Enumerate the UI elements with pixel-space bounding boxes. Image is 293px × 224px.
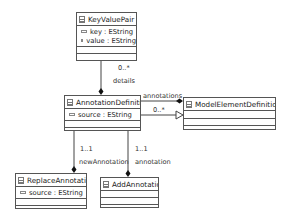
attribute-label: source : EString (78, 111, 132, 119)
generalization-triangle (176, 111, 183, 119)
class-icon (103, 181, 109, 188)
attributes-section (101, 191, 158, 198)
newAnnotation-role: newAnnotation (79, 158, 129, 166)
extra-section (77, 54, 136, 59)
class-name: KeyValuePair (88, 15, 134, 24)
class-addannotation[interactable]: AddAnnotation (100, 177, 159, 208)
class-icon (79, 16, 85, 23)
class-header: KeyValuePair (77, 13, 136, 26)
class-name: AnnotationDefinition (76, 98, 140, 107)
annotations-role: annotations (143, 92, 182, 100)
composition-diamond-details (99, 88, 104, 95)
details-multiplicity: 0..* (118, 64, 130, 72)
operations-section (65, 121, 140, 128)
attributes-section: source : EString (16, 187, 86, 199)
attribute-row[interactable]: source : EString (16, 188, 86, 197)
class-annotationdefinition[interactable]: AnnotationDefinition source : EString (64, 95, 141, 131)
class-header: AnnotationDefinition (65, 96, 140, 109)
class-header: ReplaceAnnotation (16, 174, 86, 187)
attribute-label: value : EString (86, 37, 136, 45)
attribute-label: key : EString (90, 28, 133, 36)
attribute-row[interactable]: value : EString (77, 36, 136, 45)
attribute-icon (81, 39, 83, 42)
class-icon (186, 101, 192, 108)
annotations-multiplicity: 0..* (153, 106, 165, 114)
annotation-multiplicity: 1..1 (135, 145, 148, 153)
class-keyvaluepair[interactable]: KeyValuePair key : EString value : EStri… (76, 12, 137, 61)
attributes-section: source : EString (65, 109, 140, 121)
class-name: AddAnnotation (112, 180, 158, 189)
attribute-icon (20, 191, 26, 194)
class-icon (67, 99, 73, 106)
newAnnotation-multiplicity: 1..1 (80, 145, 93, 153)
class-modelelementdefinition[interactable]: ModelElementDefinition (183, 97, 276, 130)
diagram-canvas: KeyValuePair key : EString value : EStri… (0, 0, 293, 224)
attribute-row[interactable]: source : EString (65, 110, 140, 119)
class-name: ModelElementDefinition (195, 100, 275, 109)
details-role: details (113, 77, 135, 85)
class-header: AddAnnotation (101, 178, 158, 191)
attributes-section (184, 111, 275, 119)
operations-section (16, 199, 86, 206)
operations-section (101, 198, 158, 205)
attribute-icon (81, 30, 87, 33)
extra-section (101, 205, 158, 210)
class-icon (18, 177, 24, 184)
composition-diamond-annotation (126, 170, 131, 177)
attribute-icon (69, 113, 75, 116)
attributes-section: key : EString value : EString (77, 26, 136, 47)
extra-section (184, 126, 275, 131)
extra-section (16, 206, 86, 211)
class-replaceannotation[interactable]: ReplaceAnnotation source : EString (15, 173, 87, 209)
composition-diamond-newAnnotation (72, 166, 77, 173)
extra-section (65, 128, 140, 133)
attribute-row[interactable]: key : EString (77, 27, 136, 36)
operations-section (77, 47, 136, 54)
class-name: ReplaceAnnotation (27, 176, 86, 185)
class-header: ModelElementDefinition (184, 98, 275, 111)
annotation-role: annotation (135, 158, 171, 166)
operations-section (184, 119, 275, 126)
attribute-label: source : EString (29, 189, 83, 197)
